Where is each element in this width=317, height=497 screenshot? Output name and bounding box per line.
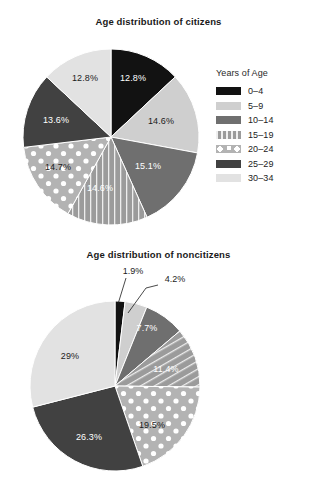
slice-label-30-34: 12.8% <box>72 73 98 83</box>
slice-label-20-24: 14.7% <box>45 162 71 172</box>
legend-item-15-19[interactable]: 15–19 <box>216 128 274 143</box>
legend-label-15-19: 15–19 <box>248 130 274 140</box>
slice-label-10-14: 7.7% <box>137 323 158 333</box>
slice-label-5-9: 4.2% <box>165 274 186 284</box>
slice-label-0-4: 12.8% <box>120 73 146 83</box>
legend-title: Years of Age <box>216 68 274 78</box>
legend-citizens: Years of Age 0–4 5–9 10–14 15–19 20–24 2… <box>216 68 274 186</box>
slice-label-25-29: 13.6% <box>43 115 69 125</box>
legend-item-20-24[interactable]: 20–24 <box>216 142 274 157</box>
slice-label-25-29: 26.3% <box>76 432 102 442</box>
legend-item-0-4[interactable]: 0–4 <box>216 84 274 99</box>
leader-line-5-9-b <box>146 285 158 288</box>
legend-label-0-4: 0–4 <box>248 86 263 96</box>
slice-label-0-4: 1.9% <box>123 266 144 276</box>
figure-noncitizens: Age distribution of noncitizens Years of… <box>0 240 317 497</box>
legend-swatch-25-29 <box>216 160 241 168</box>
figure-citizens: Age distribution of citizens Years of Ag… <box>0 0 317 240</box>
legend-swatch-10-14 <box>216 116 241 124</box>
legend-item-10-14[interactable]: 10–14 <box>216 113 274 128</box>
legend-label-30-34: 30–34 <box>248 173 274 183</box>
legend-swatch-0-4 <box>216 87 241 95</box>
legend-label-25-29: 25–29 <box>248 159 274 169</box>
slice-label-30-34: 29% <box>61 351 79 361</box>
legend-swatch-30-34 <box>216 174 241 182</box>
legend-label-5-9: 5–9 <box>248 101 263 111</box>
legend-swatch-15-19 <box>216 131 241 139</box>
legend-swatch-5-9 <box>216 102 241 110</box>
slice-label-15-19: 14.6% <box>87 183 113 193</box>
slice-label-5-9: 14.6% <box>148 116 174 126</box>
slice-label-20-24: 19.5% <box>139 420 165 430</box>
legend-swatch-20-24 <box>216 145 241 153</box>
slice-label-10-14: 15.1% <box>135 161 161 171</box>
leader-line-0-4 <box>118 278 126 304</box>
slice-label-15-19: 11.4% <box>153 364 178 374</box>
legend-item-5-9[interactable]: 5–9 <box>216 99 274 114</box>
legend-label-10-14: 10–14 <box>248 115 274 125</box>
legend-label-20-24: 20–24 <box>248 144 274 154</box>
legend-item-30-34[interactable]: 30–34 <box>216 171 274 186</box>
legend-item-25-29[interactable]: 25–29 <box>216 157 274 172</box>
